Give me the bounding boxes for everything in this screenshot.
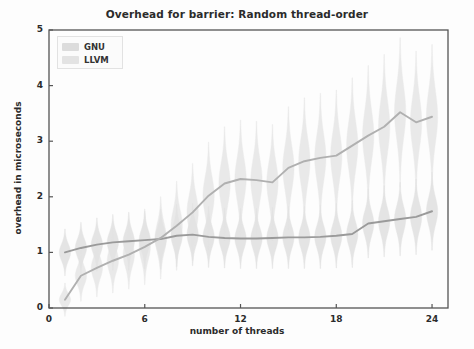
y-tick-3: 3 (23, 135, 43, 145)
chart-figure: Overhead for barrier: Random thread-orde… (0, 0, 474, 349)
legend-label-llvm: LLVM (84, 55, 109, 65)
x-tick-0: 0 (38, 314, 60, 324)
x-tick-24: 24 (421, 314, 443, 324)
x-tick-18: 18 (325, 314, 347, 324)
legend-item-gnu: GNU (62, 40, 118, 53)
legend-swatch-llvm (62, 56, 79, 64)
violin-layer (59, 38, 437, 317)
y-tick-0: 0 (23, 302, 43, 312)
x-tick-12: 12 (230, 314, 252, 324)
y-tick-2: 2 (23, 191, 43, 201)
y-tick-5: 5 (23, 24, 43, 34)
legend-label-gnu: GNU (84, 42, 105, 52)
y-tick-4: 4 (23, 80, 43, 90)
y-axis-label: overhead in microseconds (13, 68, 23, 268)
x-tick-6: 6 (134, 314, 156, 324)
legend-item-llvm: LLVM (62, 53, 118, 66)
chart-title: Overhead for barrier: Random thread-orde… (0, 8, 474, 20)
legend: GNU LLVM (57, 36, 123, 69)
x-axis-label: number of threads (0, 326, 474, 336)
trend-line-layer (65, 112, 432, 299)
legend-swatch-gnu (62, 43, 79, 51)
y-tick-1: 1 (23, 246, 43, 256)
